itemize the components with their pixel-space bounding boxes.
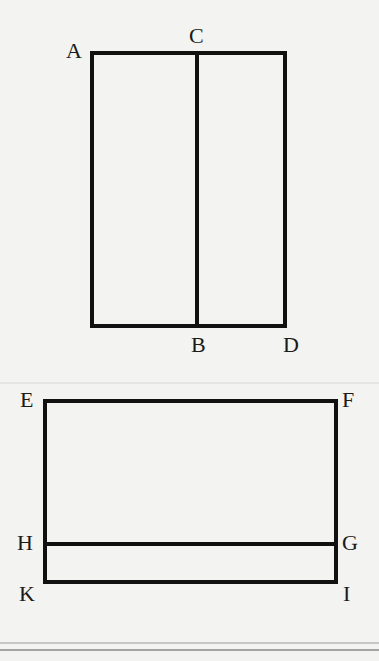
label-a: A (66, 38, 82, 63)
figure-1: A C B D (66, 23, 299, 357)
rectangle-acdb (92, 53, 285, 326)
label-k: K (19, 581, 35, 606)
label-h: H (17, 530, 33, 555)
label-f: F (342, 387, 354, 412)
label-d: D (283, 332, 299, 357)
label-c: C (189, 23, 204, 48)
rectangle-efik (45, 401, 336, 582)
figure-2: E F H G K I (17, 387, 358, 606)
label-e: E (20, 387, 33, 412)
label-b: B (191, 332, 206, 357)
geometry-diagram: A C B D E F H G K I (0, 0, 379, 661)
label-g: G (342, 530, 358, 555)
label-i: I (343, 581, 350, 606)
